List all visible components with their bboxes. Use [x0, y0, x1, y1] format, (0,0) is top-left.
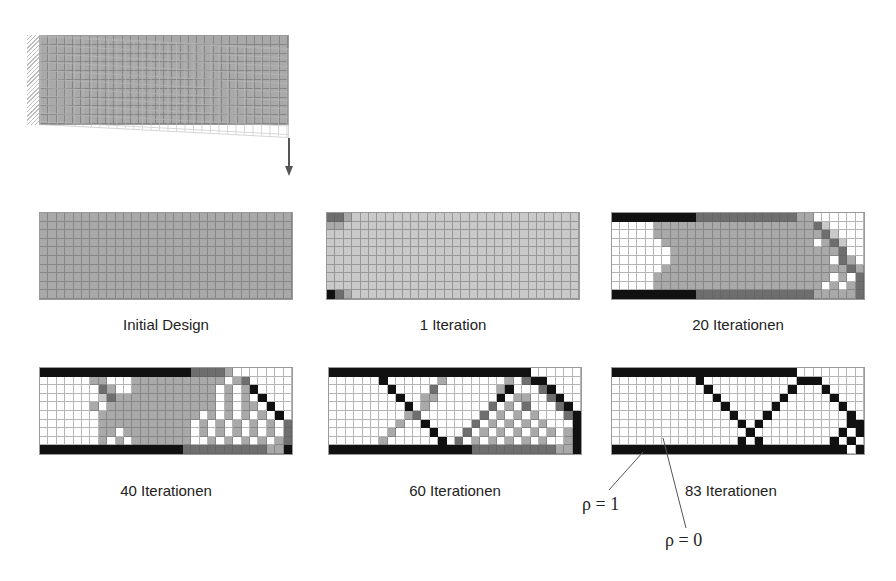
mesh-element [847, 265, 855, 274]
mesh-element [233, 385, 241, 394]
mesh-element [539, 420, 547, 429]
mesh-element [573, 402, 581, 411]
mesh-element [65, 437, 73, 446]
mesh-element [132, 385, 140, 394]
mesh-element [746, 420, 754, 429]
mesh-element [514, 445, 522, 454]
mesh-element [472, 402, 480, 411]
mesh-element [377, 265, 385, 274]
mesh-element [166, 290, 174, 299]
mesh-element [208, 402, 216, 411]
mesh-element [258, 437, 266, 446]
mesh-element [738, 411, 746, 420]
mesh-element [679, 273, 687, 282]
mesh-element [346, 385, 354, 394]
mesh-element [688, 411, 696, 420]
mesh-element [174, 290, 182, 299]
mesh-element [547, 394, 555, 403]
mesh-element [654, 290, 662, 299]
mesh-element [671, 230, 679, 239]
mesh-element [537, 290, 545, 299]
mesh-element [250, 411, 258, 420]
mesh-element [637, 222, 645, 231]
mesh-element [379, 420, 387, 429]
mesh-element [646, 428, 654, 437]
mesh-element [839, 402, 847, 411]
mesh-element [275, 368, 283, 377]
mesh-element [797, 256, 805, 265]
mesh-element [461, 247, 469, 256]
mesh-element [65, 282, 73, 291]
mesh-element [856, 282, 864, 291]
mesh-element [637, 394, 645, 403]
mesh-element [688, 247, 696, 256]
mesh-element [772, 282, 780, 291]
mesh-element [132, 222, 140, 231]
mesh-element [124, 411, 132, 420]
mesh-element [495, 282, 503, 291]
mesh-element [772, 256, 780, 265]
mesh-element [547, 437, 555, 446]
mesh-element [403, 256, 411, 265]
mesh-element [329, 377, 337, 386]
mesh-element [386, 265, 394, 274]
mesh-element [470, 273, 478, 282]
mesh-element [487, 290, 495, 299]
mesh-element [132, 437, 140, 446]
mesh-element [713, 445, 721, 454]
mesh-element [805, 377, 813, 386]
mesh-element [57, 222, 65, 231]
mesh-element [419, 239, 427, 248]
mesh-element [200, 428, 208, 437]
mesh-element [48, 265, 56, 274]
mesh-element [512, 230, 520, 239]
mesh-element [495, 247, 503, 256]
mesh-element [386, 247, 394, 256]
mesh-element [267, 445, 275, 454]
mesh-element [562, 239, 570, 248]
mesh-element [688, 402, 696, 411]
mesh-element [814, 222, 822, 231]
mesh-element [158, 247, 166, 256]
mesh-element [564, 377, 572, 386]
mesh-element [335, 273, 343, 282]
mesh-element [183, 402, 191, 411]
mesh-element [629, 290, 637, 299]
mesh-element [746, 273, 754, 282]
mesh-element [505, 437, 513, 446]
mesh-element [856, 385, 864, 394]
mesh-element [721, 402, 729, 411]
mesh-element [250, 377, 258, 386]
mesh-element [149, 265, 157, 274]
mesh-element [403, 290, 411, 299]
mesh-element [371, 368, 379, 377]
mesh-element [99, 445, 107, 454]
mesh-element [497, 445, 505, 454]
mesh-element [839, 368, 847, 377]
mesh-element [191, 411, 199, 420]
mesh-element [337, 394, 345, 403]
mesh-element [191, 247, 199, 256]
mesh-element [354, 402, 362, 411]
mesh-element [797, 437, 805, 446]
mesh-element [430, 368, 438, 377]
mesh-element [65, 213, 73, 222]
mesh-element [447, 411, 455, 420]
mesh-element [354, 420, 362, 429]
mesh-element [461, 265, 469, 274]
mesh-element [495, 230, 503, 239]
mesh-element [174, 377, 182, 386]
mesh-element [539, 368, 547, 377]
mesh-element [629, 265, 637, 274]
mesh-element [233, 368, 241, 377]
mesh-element [746, 368, 754, 377]
mesh-element [573, 420, 581, 429]
mesh-element [344, 290, 352, 299]
mesh-element [284, 428, 292, 437]
mesh-element [200, 411, 208, 420]
mesh-element [363, 377, 371, 386]
mesh-element [704, 265, 712, 274]
mesh-element [363, 428, 371, 437]
mesh-element [721, 282, 729, 291]
mesh-element [755, 213, 763, 222]
